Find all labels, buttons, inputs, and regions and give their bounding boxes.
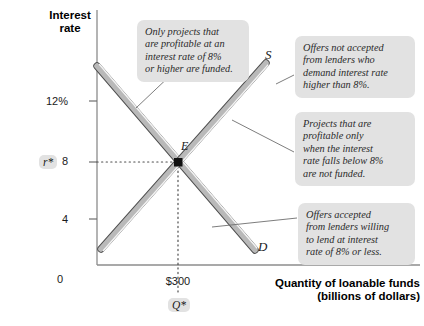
callout-offers-accepted: Offers accepted from lenders willing to … [298,203,415,265]
equilibrium-point-label: E [181,139,188,154]
x-axis-title: Quantity of loanable funds (billions of … [252,277,420,303]
demand-curve-label: D [258,239,267,255]
x-tick-label-300: $300 [148,275,208,287]
demand-curve [97,65,257,251]
equilibrium-point-marker [174,158,183,167]
loanable-funds-market-diagram: Interest rate 12% 8 4 r* 0 $300 Q* Quant… [0,0,424,326]
equilibrium-quantity-label: Q* [168,298,190,312]
supply-curve-label: S [265,47,272,63]
callout-projects-not-funded: Projects that are profitable only when t… [295,112,415,186]
callout-4-connector [212,218,297,227]
supply-curve [101,63,268,251]
equilibrium-rate-label: r* [39,155,57,169]
y-axis-title: Interest rate [18,9,122,35]
y-tick-label-4: 4 [20,213,68,225]
callout-3-connector [232,120,294,152]
origin-label: 0 [57,273,63,285]
y-tick-label-12: 12% [20,95,68,107]
callout-2-connector [276,75,294,84]
callout-offers-not-accepted: Offers not accepted from lenders who dem… [295,36,415,98]
callout-projects-profitable-above-8: Only projects that are profitable at an … [137,20,249,82]
